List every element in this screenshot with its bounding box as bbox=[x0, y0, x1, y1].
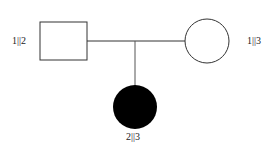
child-affected-circle bbox=[113, 85, 157, 129]
father-square bbox=[40, 22, 87, 60]
mother-label: 1||3 bbox=[247, 35, 261, 46]
mother-circle bbox=[185, 19, 229, 63]
child-label: 2||3 bbox=[126, 131, 140, 142]
father-label: 1||2 bbox=[12, 35, 26, 46]
